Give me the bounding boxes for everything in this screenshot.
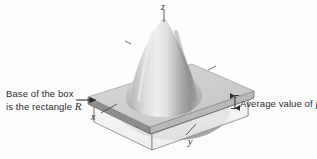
average-value-text: Average value of bbox=[240, 98, 315, 109]
rectangle-r-symbol: R bbox=[75, 100, 82, 112]
base-of-box-caption-text: is the rectangle bbox=[6, 101, 75, 112]
axis-label-z: z bbox=[161, 1, 165, 12]
base-of-box-caption-line1: Base of the box bbox=[6, 88, 74, 100]
average-value-caption: Average value of f bbox=[240, 97, 317, 110]
surface-graphic bbox=[0, 0, 317, 159]
function-f-symbol: f bbox=[315, 97, 317, 109]
base-of-box-caption-line2: is the rectangle R bbox=[6, 100, 82, 113]
axis-label-y: y bbox=[188, 136, 192, 147]
figure-average-value-of-f: Base of the box is the rectangle R Avera… bbox=[0, 0, 317, 159]
plate-tick-right bbox=[208, 66, 216, 70]
axis-label-x: x bbox=[91, 111, 95, 122]
plate-tick-left bbox=[125, 41, 131, 44]
